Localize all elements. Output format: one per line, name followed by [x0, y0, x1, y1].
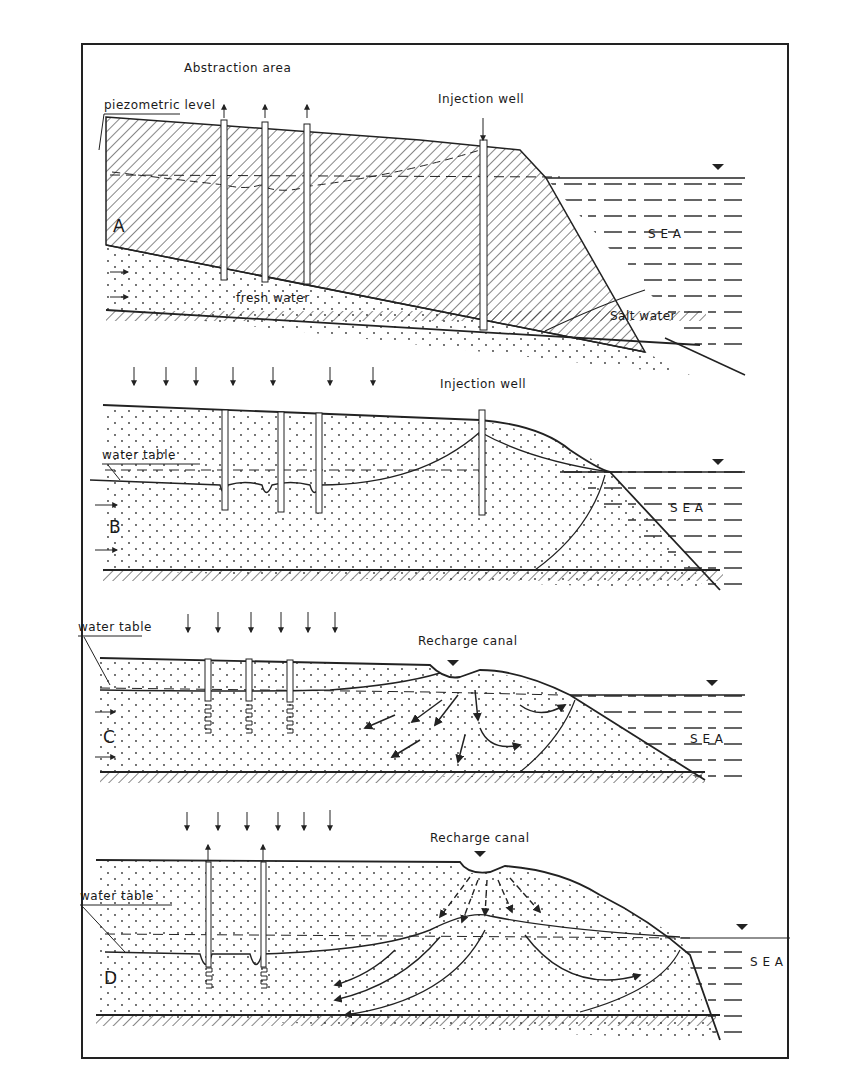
panel-a: Abstraction area piezometric level Injec…	[99, 61, 745, 375]
rain-arrows	[134, 367, 373, 385]
water-level-icon	[712, 459, 724, 465]
panel-c: water table Recharge canal S E A	[78, 612, 745, 783]
injection-well-label: Injection well	[440, 377, 526, 391]
fresh-water-label: fresh water	[236, 291, 310, 305]
panel-letter-c: C	[103, 727, 115, 747]
rain-arrows	[187, 810, 330, 830]
diagram-frame: Abstraction area piezometric level Injec…	[0, 0, 846, 1082]
water-table-label: water table	[80, 889, 154, 903]
panel-letter-a: A	[113, 216, 125, 236]
panel-d: Recharge canal S E A water table	[80, 810, 790, 1040]
panel-letter-b: B	[109, 517, 121, 537]
injection-well-label: Injection well	[438, 92, 524, 106]
water-level-icon	[736, 924, 748, 930]
piezometric-level-label: piezometric level	[104, 98, 215, 112]
recharge-canal-label: Recharge canal	[430, 831, 530, 845]
water-level-icon	[712, 164, 724, 170]
abstraction-area-label: Abstraction area	[184, 61, 291, 75]
water-level-icon	[706, 680, 718, 686]
sea-label: S E A	[648, 227, 682, 241]
canal-level-icon	[447, 660, 459, 666]
injection-well	[479, 410, 485, 515]
water-table-label: water table	[78, 620, 152, 634]
water-table-label: water table	[102, 448, 176, 462]
sea-label: S E A	[690, 732, 724, 746]
salt-water-label: Salt water	[610, 309, 676, 323]
panel-letter-d: D	[104, 968, 117, 988]
recharge-canal-label: Recharge canal	[418, 634, 518, 648]
aquifer	[96, 860, 715, 1040]
aquifer	[103, 405, 710, 590]
injection-well	[480, 140, 487, 330]
canal-level-icon	[474, 851, 486, 857]
panel-b: Injection well S E A water table B	[90, 367, 745, 590]
sea-label: S E A	[750, 955, 784, 969]
sea-label: S E A	[670, 501, 704, 515]
rain-arrows	[188, 612, 335, 632]
